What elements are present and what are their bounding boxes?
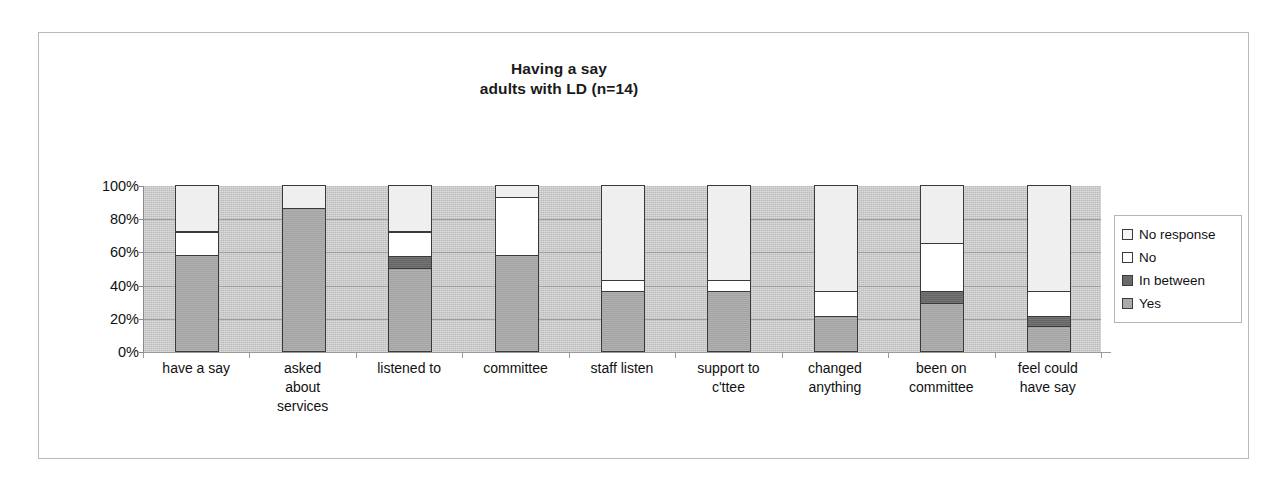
bar-segment-yes[interactable] (601, 291, 645, 352)
chart-title: Having a say adults with LD (n=14) (39, 59, 1079, 99)
x-axis-labels: have a sayaskedaboutserviceslistened toc… (143, 359, 1101, 439)
x-axis-tick-mark (249, 352, 250, 358)
bar-segment-yes[interactable] (707, 291, 751, 352)
legend-item-label: No (1139, 250, 1156, 265)
y-axis-tick-label: 0% (87, 344, 139, 360)
bar-segment-no[interactable] (601, 280, 645, 293)
x-axis-tick-mark (675, 352, 676, 358)
legend-item-no-response[interactable]: No response (1122, 223, 1235, 246)
x-axis-category-label-line: c'ttee (675, 378, 781, 397)
x-axis-category-label-line: been on (888, 359, 994, 378)
bar-segment-no-response[interactable] (1027, 185, 1071, 292)
bar-segment-no[interactable] (175, 232, 219, 256)
chart-subtitle: adults with LD (n=14) (39, 79, 1079, 99)
bar-segment-no-response[interactable] (282, 185, 326, 209)
stacked-bar[interactable] (601, 186, 645, 352)
bar-segment-yes[interactable] (920, 303, 964, 352)
y-axis-tick-label: 20% (87, 311, 139, 327)
legend-swatch-icon (1122, 252, 1133, 263)
bar-group (996, 186, 1102, 352)
chart-title-line-1: Having a say (511, 60, 607, 77)
x-axis-category-label: support toc'ttee (675, 359, 781, 397)
bar-segment-no-response[interactable] (920, 185, 964, 244)
x-axis-category-label: have a say (143, 359, 249, 378)
chart-frame: Having a say adults with LD (n=14) 100%8… (38, 32, 1249, 459)
legend-swatch-icon (1122, 275, 1133, 286)
bar-segment-no-response[interactable] (495, 185, 539, 198)
bar-segment-no[interactable] (388, 232, 432, 258)
bar-group (463, 186, 569, 352)
y-axis-tick-label: 40% (87, 278, 139, 294)
y-axis: 100%80%60%40%20%0% (79, 186, 139, 352)
bar-group (783, 186, 889, 352)
x-axis-category-label-line: listened to (356, 359, 462, 378)
y-axis-tick-label: 100% (87, 178, 139, 194)
legend-item-label: In between (1139, 273, 1205, 288)
stacked-bar[interactable] (1027, 186, 1071, 352)
bar-segment-no-response[interactable] (388, 185, 432, 232)
stacked-bar[interactable] (495, 186, 539, 352)
bar-segment-no-response[interactable] (707, 185, 751, 281)
bar-group (250, 186, 356, 352)
bar-segment-no-response[interactable] (175, 185, 219, 232)
x-axis-tick-mark (1101, 352, 1102, 358)
bar-segment-no[interactable] (707, 280, 751, 293)
y-axis-tick-label: 60% (87, 244, 139, 260)
chart-legend: No responseNoIn betweenYes (1114, 215, 1242, 323)
x-axis-category-label: listened to (356, 359, 462, 378)
bar-segment-yes[interactable] (495, 255, 539, 352)
bar-segment-yes[interactable] (388, 268, 432, 352)
bar-group (144, 186, 250, 352)
bar-segment-no[interactable] (814, 291, 858, 317)
bar-segment-yes[interactable] (814, 316, 858, 352)
bar-segment-no[interactable] (495, 197, 539, 256)
bar-group (570, 186, 676, 352)
stacked-bar[interactable] (175, 186, 219, 352)
x-axis-tick-mark (782, 352, 783, 358)
x-axis-category-label: askedaboutservices (249, 359, 355, 416)
x-axis-category-label-line: have say (995, 378, 1101, 397)
x-axis-category-label-line: committee (462, 359, 568, 378)
bar-segment-yes[interactable] (1027, 326, 1071, 352)
bar-segment-in-between[interactable] (920, 291, 964, 304)
x-axis-category-label-line: asked (249, 359, 355, 378)
bar-segment-no-response[interactable] (601, 185, 645, 281)
x-axis-category-label-line: have a say (143, 359, 249, 378)
x-axis-category-label-line: services (249, 397, 355, 416)
bar-segment-yes[interactable] (282, 208, 326, 352)
x-axis-category-label-line: changed (782, 359, 888, 378)
stacked-bar[interactable] (282, 186, 326, 352)
x-axis-category-label: changedanything (782, 359, 888, 397)
x-axis-tick-mark (995, 352, 996, 358)
legend-swatch-icon (1122, 229, 1133, 240)
legend-item-in-between[interactable]: In between (1122, 269, 1235, 292)
x-axis-category-label-line: support to (675, 359, 781, 378)
bar-segment-no[interactable] (920, 243, 964, 292)
bar-segment-no[interactable] (1027, 291, 1071, 317)
legend-item-yes[interactable]: Yes (1122, 292, 1235, 315)
x-axis-tick-mark (569, 352, 570, 358)
x-axis-category-label-line: committee (888, 378, 994, 397)
bar-group (676, 186, 782, 352)
legend-item-no[interactable]: No (1122, 246, 1235, 269)
stacked-bar[interactable] (920, 186, 964, 352)
bar-segment-no-response[interactable] (814, 185, 858, 292)
stacked-bar[interactable] (707, 186, 751, 352)
legend-swatch-icon (1122, 298, 1133, 309)
x-axis-category-label: feel couldhave say (995, 359, 1101, 397)
legend-item-label: No response (1139, 227, 1216, 242)
legend-item-label: Yes (1139, 296, 1161, 311)
stacked-bar[interactable] (814, 186, 858, 352)
plot-area (143, 186, 1101, 352)
x-axis-line (143, 352, 1111, 353)
x-axis-tick-mark (462, 352, 463, 358)
bar-segment-in-between[interactable] (1027, 316, 1071, 327)
bar-segment-in-between[interactable] (388, 256, 432, 269)
stacked-bar[interactable] (388, 186, 432, 352)
x-axis-category-label: staff listen (569, 359, 675, 378)
x-axis-category-label-line: anything (782, 378, 888, 397)
y-axis-tick-label: 80% (87, 211, 139, 227)
x-axis-category-label-line: staff listen (569, 359, 675, 378)
bar-segment-yes[interactable] (175, 255, 219, 352)
bar-group (357, 186, 463, 352)
